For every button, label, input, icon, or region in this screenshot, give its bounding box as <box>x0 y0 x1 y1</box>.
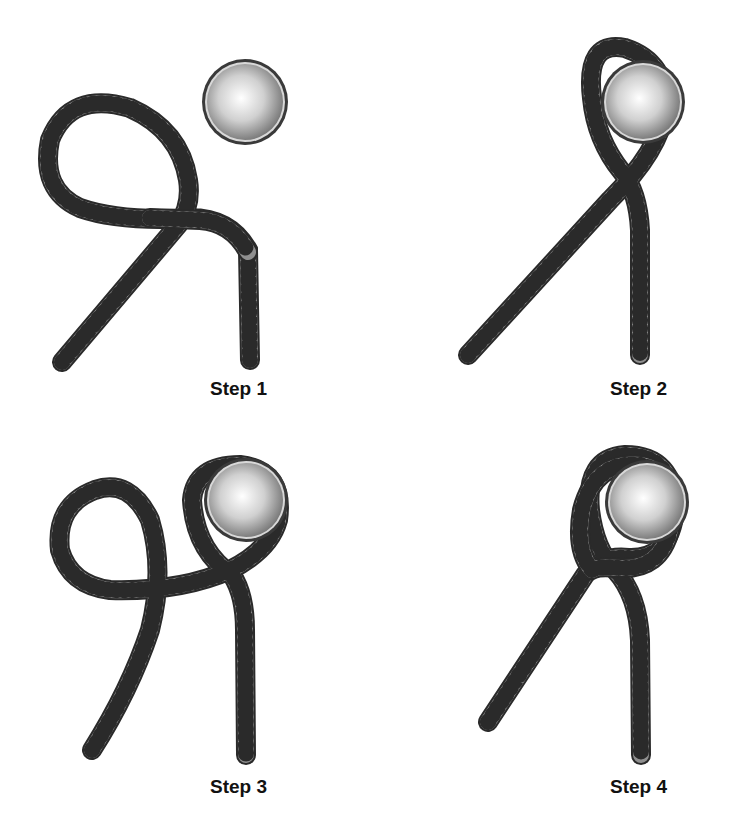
step-1-label: Step 1 <box>210 378 267 400</box>
step-1-illustration <box>0 0 370 410</box>
step-2-illustration <box>370 0 740 410</box>
ball-icon <box>204 458 288 542</box>
step-4-illustration <box>370 410 740 820</box>
step-3-label: Step 3 <box>210 776 267 798</box>
ball-icon <box>601 60 685 144</box>
step-4-label: Step 4 <box>610 776 667 798</box>
step-2-panel: Step 2 <box>370 0 740 410</box>
ball-icon <box>605 460 689 544</box>
ball-icon <box>202 59 288 145</box>
step-3-illustration <box>0 410 370 820</box>
rope-icon <box>48 103 250 362</box>
step-3-panel: Step 3 <box>0 410 370 820</box>
step-2-label: Step 2 <box>610 378 667 400</box>
step-1-panel: Step 1 <box>0 0 370 410</box>
step-4-panel: Step 4 <box>370 410 740 820</box>
